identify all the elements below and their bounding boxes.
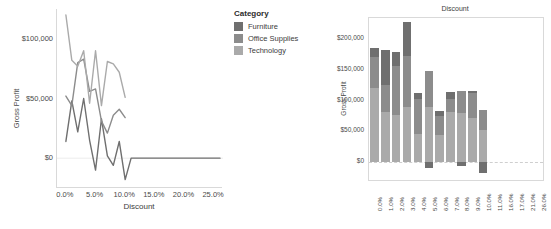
bar-segment-office-supplies	[392, 66, 400, 115]
line-chart-svg	[57, 9, 223, 188]
bar-column[interactable]	[533, 18, 541, 180]
bar-segment-furniture	[370, 48, 378, 57]
bar-segment-technology	[457, 113, 465, 161]
line-chart-x-tick: 10.0%	[114, 190, 135, 199]
legend-item-office-supplies[interactable]: Office Supplies	[234, 34, 330, 43]
bar-segment-technology	[468, 118, 476, 162]
bar-chart-x-tick: 26.0%	[540, 193, 547, 211]
legend-item-furniture[interactable]: Furniture	[234, 22, 330, 31]
bar-chart-x-tick: 1.0%	[387, 197, 394, 211]
bar-chart-y-tick: $200,000	[337, 34, 364, 41]
bar-chart-x-tick: 0.0%	[376, 197, 383, 211]
bar-column[interactable]	[512, 18, 520, 180]
bar-chart-x-tick: 17.0%	[518, 193, 525, 211]
bar-chart-y-tick: $0	[357, 157, 364, 164]
legend-item-technology[interactable]: Technology	[234, 46, 330, 55]
bar-column[interactable]	[370, 18, 378, 180]
bar-segment-office-supplies	[457, 91, 465, 113]
bar-segment-furniture	[446, 92, 454, 99]
bar-chart-x-tick: 6.0%	[442, 197, 449, 211]
bar-segment-technology	[370, 88, 378, 161]
bar-segment-furniture	[381, 50, 389, 84]
bar-chart-x-tick: 3.0%	[409, 197, 416, 211]
bar-segment-furniture	[425, 162, 433, 168]
bar-segment-office-supplies	[435, 116, 443, 135]
legend-items: FurnitureOffice SuppliesTechnology	[234, 22, 330, 55]
bar-segment-technology	[414, 134, 422, 162]
legend-swatch-icon	[234, 22, 243, 31]
bar-chart-y-tick-labels: $0$50,000$100,000$150,000$200,000	[330, 17, 366, 181]
bar-chart-y-tick: $100,000	[337, 96, 364, 103]
bar-segment-office-supplies	[414, 99, 422, 133]
bar-column[interactable]	[479, 18, 487, 180]
bar-chart-plot-area	[368, 17, 544, 181]
bar-column[interactable]	[392, 18, 400, 180]
line-series-furniture	[66, 99, 220, 180]
bar-segment-technology	[425, 107, 433, 162]
bar-segment-office-supplies	[468, 93, 476, 118]
bar-chart-y-tick: $50,000	[341, 126, 365, 133]
line-chart-x-tick-labels: 0.0%5.0%10.0%15.0%20.0%25.0%	[56, 190, 222, 202]
category-legend: Category FurnitureOffice SuppliesTechnol…	[234, 9, 330, 58]
line-chart-y-tick-labels: $0$50,000$100,000	[0, 9, 53, 188]
bar-chart-y-tick: $150,000	[337, 65, 364, 72]
bar-chart-x-tick: 2.0%	[398, 197, 405, 211]
line-chart-x-tick: 5.0%	[86, 190, 103, 199]
bar-column[interactable]	[425, 18, 433, 180]
legend-item-label: Office Supplies	[248, 34, 298, 43]
line-series-office-supplies	[66, 59, 125, 133]
bar-segment-furniture	[403, 22, 411, 56]
line-chart-y-tick: $100,000	[22, 34, 53, 43]
bar-column[interactable]	[446, 18, 454, 180]
bar-segment-office-supplies	[425, 71, 433, 106]
line-chart-x-tick: 15.0%	[143, 190, 164, 199]
bar-segment-office-supplies	[403, 56, 411, 107]
bar-column[interactable]	[501, 18, 509, 180]
bar-segment-furniture	[392, 52, 400, 65]
line-chart-x-tick: 0.0%	[56, 190, 73, 199]
bar-chart-x-tick: 11.0%	[496, 194, 503, 211]
bar-column[interactable]	[490, 18, 498, 180]
bar-segment-furniture	[435, 111, 443, 116]
bar-chart-panel: Discount Gross Profit $0$50,000$100,000$…	[330, 0, 551, 229]
bar-chart-x-tick: 10.0%	[485, 193, 492, 211]
bar-segment-furniture	[479, 162, 487, 173]
legend-swatch-icon	[234, 46, 243, 55]
bar-column[interactable]	[522, 18, 530, 180]
bar-segment-technology	[479, 130, 487, 161]
bar-segment-office-supplies	[381, 85, 389, 112]
bar-segment-furniture	[414, 93, 422, 100]
bar-chart-x-tick: 7.0%	[453, 197, 460, 211]
bar-segment-technology	[446, 112, 454, 162]
bar-segment-technology	[392, 115, 400, 162]
dashboard-root: Gross Profit $0$50,000$100,000 0.0%5.0%1…	[0, 0, 551, 229]
bar-segment-office-supplies	[370, 57, 378, 89]
bar-chart-x-tick: 5.0%	[431, 197, 438, 211]
line-chart-x-axis-title: Discount	[56, 202, 222, 211]
line-chart-y-tick: $0	[45, 153, 53, 162]
bar-chart-x-tick: 4.0%	[420, 197, 427, 211]
bar-column[interactable]	[414, 18, 422, 180]
bar-column[interactable]	[435, 18, 443, 180]
bar-chart-x-tick: 9.0%	[474, 197, 481, 211]
bar-column[interactable]	[381, 18, 389, 180]
bar-segment-office-supplies	[479, 110, 487, 131]
bar-chart-x-tick: 21.0%	[529, 193, 536, 211]
bar-chart-title: Discount	[366, 5, 544, 12]
line-chart-plot-area	[56, 9, 222, 188]
bar-column[interactable]	[457, 18, 465, 180]
line-chart-x-tick: 20.0%	[173, 190, 194, 199]
line-chart-y-tick: $50,000	[26, 94, 53, 103]
bar-chart-x-tick: 16.0%	[507, 193, 514, 211]
bar-segment-technology	[381, 112, 389, 162]
bar-column[interactable]	[403, 18, 411, 180]
bar-segment-technology	[403, 107, 411, 162]
bar-segment-furniture	[468, 91, 476, 92]
bar-segment-office-supplies	[446, 99, 454, 112]
legend-item-label: Technology	[248, 46, 286, 55]
legend-swatch-icon	[234, 34, 243, 43]
bar-column[interactable]	[468, 18, 476, 180]
bar-chart-x-tick: 8.0%	[463, 197, 470, 211]
line-chart-x-tick: 25.0%	[202, 190, 223, 199]
legend-title: Category	[234, 9, 330, 18]
